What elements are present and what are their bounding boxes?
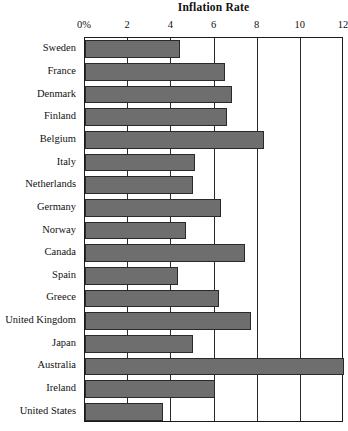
bar — [85, 403, 163, 421]
category-label: France — [0, 66, 80, 77]
category-label: Germany — [0, 202, 80, 213]
category-label: Ireland — [0, 383, 80, 394]
plot-area — [84, 37, 343, 422]
category-label: Greece — [0, 292, 80, 303]
bar — [85, 380, 215, 398]
x-axis-tick-labels: 0%24681012 — [84, 19, 343, 34]
bar — [85, 290, 219, 308]
bar — [85, 131, 264, 149]
y-axis-category-labels: SwedenFranceDenmarkFinlandBelgiumItalyNe… — [0, 37, 80, 422]
bar — [85, 40, 180, 58]
bar — [85, 267, 178, 285]
chart-title: Inflation Rate — [84, 1, 343, 13]
category-label: United Kingdom — [0, 315, 80, 326]
bar — [85, 222, 186, 240]
category-label: Netherlands — [0, 179, 80, 190]
bar — [85, 199, 221, 217]
category-label: United States — [0, 406, 80, 417]
category-label: Sweden — [0, 43, 80, 54]
category-label: Japan — [0, 338, 80, 349]
inflation-rate-chart: Inflation Rate 0%24681012 SwedenFranceDe… — [0, 0, 348, 431]
x-tick-label: 4 — [168, 19, 173, 30]
category-label: Australia — [0, 360, 80, 371]
bar — [85, 176, 193, 194]
bar — [85, 108, 227, 126]
x-tick-label: 12 — [338, 19, 348, 30]
category-label: Norway — [0, 225, 80, 236]
x-tick-label: 0% — [77, 19, 91, 30]
category-label: Italy — [0, 157, 80, 168]
bar — [85, 358, 344, 376]
bar — [85, 154, 195, 172]
category-label: Finland — [0, 111, 80, 122]
bar — [85, 312, 251, 330]
category-label: Denmark — [0, 89, 80, 100]
x-tick-label: 6 — [211, 19, 216, 30]
category-label: Belgium — [0, 134, 80, 145]
bar — [85, 335, 193, 353]
x-tick-label: 2 — [125, 19, 130, 30]
category-label: Canada — [0, 247, 80, 258]
category-label: Spain — [0, 270, 80, 281]
bar — [85, 63, 225, 81]
x-tick-label: 8 — [254, 19, 259, 30]
x-tick-label: 10 — [295, 19, 306, 30]
bar — [85, 86, 232, 104]
bar — [85, 244, 245, 262]
bars-layer — [85, 38, 342, 421]
